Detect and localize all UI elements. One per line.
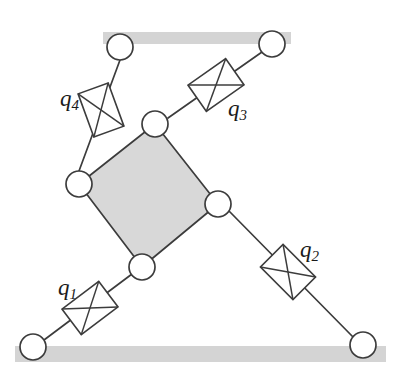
actuator-label-q3-subscript: 3 <box>239 107 248 123</box>
actuator-label-q1-subscript: 1 <box>70 286 78 302</box>
base-joint-top-left[interactable] <box>107 34 133 60</box>
base-joint-top-right[interactable] <box>259 31 285 57</box>
actuator-label-q4: q4 <box>60 86 80 113</box>
base-joint-bottom-left[interactable] <box>20 334 46 360</box>
platform-joint-right[interactable] <box>205 191 231 217</box>
linkage-svg-canvas: q1 q2 q3 q4 <box>0 0 405 388</box>
bottom-ground-bar <box>15 346 386 362</box>
moving-platform <box>79 124 218 267</box>
prismatic-actuator-q4[interactable] <box>78 83 124 137</box>
actuator-label-q2: q2 <box>300 237 320 264</box>
platform-joint-top[interactable] <box>142 111 168 137</box>
actuator-label-q4-text: q <box>60 86 72 111</box>
actuator-label-q2-text: q <box>300 237 312 262</box>
actuator-label-q3-text: q <box>228 96 240 121</box>
base-joint-bottom-right[interactable] <box>350 332 376 358</box>
platform-joint-bottom[interactable] <box>129 254 155 280</box>
actuator-label-q3: q3 <box>228 96 247 123</box>
actuator-label-q4-subscript: 4 <box>72 97 80 113</box>
actuator-label-q2-subscript: 2 <box>312 248 320 264</box>
actuator-label-q1-text: q <box>58 275 70 300</box>
platform-joint-left[interactable] <box>66 171 92 197</box>
actuator-label-q1: q1 <box>58 275 77 302</box>
linkage-diagram-figure: q1 q2 q3 q4 <box>0 0 405 388</box>
